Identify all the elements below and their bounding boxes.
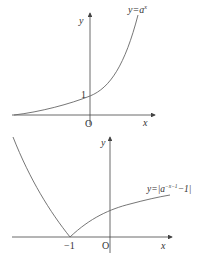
curve-label: y=ax bbox=[127, 4, 147, 15]
x-axis-label: x bbox=[142, 117, 148, 128]
absolute-exponential-graph: y x O −1 y=|a−x−1−1| bbox=[12, 137, 191, 253]
y-axis-label: y bbox=[78, 15, 84, 26]
exponential-graph: y x O 1 y=ax bbox=[12, 4, 155, 129]
origin-label: O bbox=[102, 240, 109, 251]
diagram-canvas: y x O 1 y=ax y x O −1 y=|a−x−1−1| bbox=[0, 0, 211, 258]
y-axis-label: y bbox=[100, 137, 106, 148]
curve-label: y=|a−x−1−1| bbox=[146, 183, 191, 194]
left-branch-curve bbox=[13, 137, 70, 237]
vertex-label: −1 bbox=[64, 240, 75, 251]
exponential-curve bbox=[14, 15, 138, 115]
x-axis-label: x bbox=[160, 240, 166, 251]
right-branch-curve bbox=[70, 195, 170, 237]
origin-label: O bbox=[85, 118, 92, 129]
y-intercept-label: 1 bbox=[81, 89, 86, 100]
